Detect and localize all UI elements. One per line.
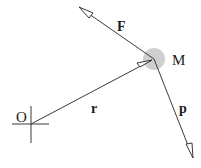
arrowhead-icon — [79, 7, 93, 18]
vector-diagram: O M r F p — [0, 0, 201, 168]
origin-label: O — [16, 109, 27, 125]
position-label: r — [91, 101, 97, 116]
force-label: F — [117, 19, 126, 34]
arrowhead-icon — [186, 143, 193, 158]
mass-label: M — [172, 52, 185, 68]
momentum-vector-p — [154, 59, 193, 158]
momentum-label: p — [179, 101, 187, 116]
